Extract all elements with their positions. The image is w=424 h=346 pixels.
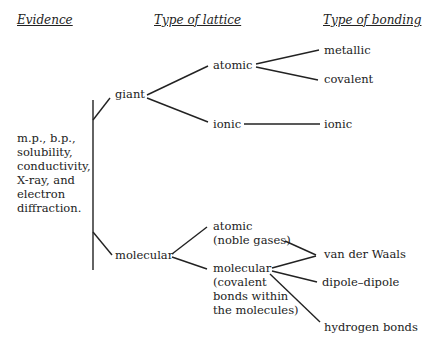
edge-to-giant [93,98,110,120]
edge-atomic-metallic [256,50,319,64]
edge-mol-molecular [172,257,207,269]
edge-giant-ionic [147,98,208,122]
edge-noble-vdw [285,241,316,255]
edge-molecular-dipole [272,271,317,282]
connector-lines [0,0,424,346]
edge-atomic-covalent [256,67,318,80]
edge-molecular-vdw [272,256,316,268]
edge-to-molecular [93,232,112,255]
edge-mol-atomic [172,227,207,254]
edge-giant-atomic [147,66,208,95]
